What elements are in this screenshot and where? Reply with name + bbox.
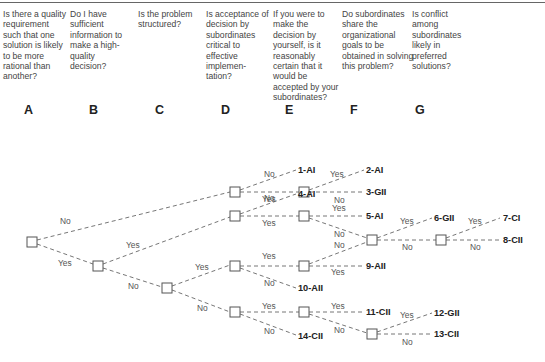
decision-tree: No Yes Yes No Yes No No Yes Yes No No Ye… xyxy=(0,0,545,362)
label-no: No xyxy=(334,240,345,250)
node-a xyxy=(27,237,37,247)
label-yes: Yes xyxy=(262,301,276,311)
outcome-12: 12-GII xyxy=(434,308,460,318)
node-e4 xyxy=(299,307,309,317)
label-yes: Yes xyxy=(468,216,482,226)
node-g xyxy=(436,235,446,245)
label-yes: Yes xyxy=(126,240,140,250)
label-yes: Yes xyxy=(331,301,345,311)
label-no: No xyxy=(264,278,275,288)
node-e2 xyxy=(299,211,309,221)
node-d2 xyxy=(230,211,240,221)
outcome-6: 6-GII xyxy=(434,213,454,223)
label-yes: Yes xyxy=(400,310,414,320)
branch-labels: No Yes Yes No Yes No No Yes Yes No No Ye… xyxy=(58,169,482,347)
outcome-10: 10-AII xyxy=(298,283,323,293)
label-no: No xyxy=(60,216,71,226)
node-d3 xyxy=(230,261,240,271)
label-no: No xyxy=(128,281,139,291)
outcome-11: 11-CII xyxy=(366,307,391,317)
label-no: No xyxy=(264,326,275,336)
node-f1 xyxy=(367,235,377,245)
node-c xyxy=(162,283,172,293)
label-no: No xyxy=(264,193,275,203)
node-b xyxy=(93,261,103,271)
label-no: No xyxy=(334,229,345,239)
label-yes: Yes xyxy=(400,216,414,226)
outcome-7: 7-CI xyxy=(503,213,520,223)
outcome-13: 13-CII xyxy=(434,329,459,339)
outcome-4: 4-AI xyxy=(298,189,315,199)
label-no: No xyxy=(402,242,413,252)
node-d1 xyxy=(230,187,240,197)
outcome-3: 3-GII xyxy=(366,187,386,197)
label-yes: Yes xyxy=(195,262,209,272)
node-f2 xyxy=(367,329,377,339)
label-no: No xyxy=(197,303,208,313)
outcome-5: 5-AI xyxy=(366,211,383,221)
label-yes: Yes xyxy=(262,218,276,228)
node-d4 xyxy=(230,307,240,317)
label-yes: Yes xyxy=(331,267,345,277)
outcome-14: 14-CII xyxy=(298,331,323,341)
label-no: No xyxy=(334,325,345,335)
outcome-2: 2-AI xyxy=(366,165,383,175)
label-yes: Yes xyxy=(58,258,72,268)
node-e3 xyxy=(299,261,309,271)
label-yes: Yes xyxy=(330,169,344,179)
outcome-1: 1-AI xyxy=(298,165,315,175)
label-yes: Yes xyxy=(332,203,346,213)
outcome-8: 8-CII xyxy=(503,235,523,245)
label-yes: Yes xyxy=(262,251,276,261)
label-no: No xyxy=(402,337,413,347)
outcome-9: 9-AII xyxy=(366,261,386,271)
label-no: No xyxy=(264,169,275,179)
label-no: No xyxy=(470,242,481,252)
